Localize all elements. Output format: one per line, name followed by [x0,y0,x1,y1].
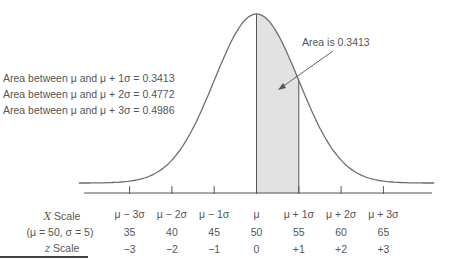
x-scale-label: X Scale [43,210,81,222]
sigma-tick-label: μ + 3σ [368,208,399,220]
x-value-tick-label: 50 [251,226,263,238]
tick-labels: μ − 3σ35−3μ − 2σ40−2μ − 1σ45−1μ500μ + 1σ… [114,208,399,255]
area-annotation-line: Area between μ and μ + 1σ = 0.3413 [3,72,175,84]
z-value-tick-label: 0 [254,243,260,255]
sigma-tick-label: μ + 1σ [284,208,315,220]
z-value-tick-label: +1 [293,243,305,255]
area-annotation-line: Area between μ and μ + 3σ = 0.4986 [3,104,175,116]
x-value-tick-label: 60 [335,226,347,238]
z-scale-word: Scale [50,242,79,254]
z-value-tick-label: −3 [124,243,136,255]
x-value-tick-label: 55 [293,226,305,238]
z-value-tick-label: −2 [166,243,178,255]
z-value-tick-label: +2 [335,243,347,255]
x-value-tick-label: 45 [208,226,220,238]
sigma-tick-label: μ + 2σ [326,208,357,220]
sigma-tick-label: μ − 2σ [157,208,188,220]
bottom-rule [0,256,88,258]
x-value-tick-label: 40 [166,226,178,238]
params-label: (μ = 50, σ = 5) [27,226,94,238]
sigma-tick-label: μ [253,208,259,220]
callout-label: Area is 0.3413 [302,36,370,48]
x-value-tick-label: 35 [124,226,136,238]
normal-distribution-chart: Area between μ and μ + 1σ = 0.3413Area b… [0,0,449,260]
z-scale-label: z Scale [44,242,80,254]
area-annotation-line: Area between μ and μ + 2σ = 0.4772 [3,88,175,100]
shaded-area-mu-to-1sigma [257,14,299,193]
sigma-tick-label: μ − 1σ [199,208,230,220]
z-value-tick-label: −1 [208,243,220,255]
area-annotations: Area between μ and μ + 1σ = 0.3413Area b… [3,72,175,116]
x-value-tick-label: 65 [378,226,390,238]
sigma-tick-label: μ − 3σ [114,208,145,220]
z-value-tick-label: +3 [377,243,389,255]
x-scale-word: Scale [51,210,80,222]
